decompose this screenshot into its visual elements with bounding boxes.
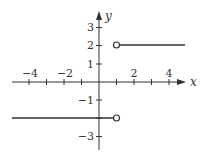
x-tick-label: −2 <box>57 67 73 80</box>
open-circle-icon <box>114 42 120 48</box>
y-axis-label: y <box>104 9 112 23</box>
y-tick-label: −3 <box>78 130 94 143</box>
y-axis: 3 2 1 −1 −3 y <box>78 9 112 150</box>
y-tick-label: 3 <box>87 21 94 34</box>
x-axis-arrow-icon <box>177 79 186 85</box>
y-tick-label: −1 <box>78 94 94 107</box>
y-tick-label: 2 <box>87 39 94 52</box>
x-tick-label: 4 <box>166 67 173 80</box>
y-axis-arrow-icon <box>96 11 102 20</box>
x-axis: −4 −2 2 4 x <box>12 67 197 89</box>
open-circle-icon <box>114 115 120 121</box>
step-function-graph: −4 −2 2 4 x 3 2 1 −1 −3 y <box>0 0 201 161</box>
y-tick-label: 1 <box>87 58 94 71</box>
x-tick-label: −4 <box>22 67 38 80</box>
x-axis-label: x <box>190 75 197 89</box>
x-tick-label: 2 <box>131 67 138 80</box>
